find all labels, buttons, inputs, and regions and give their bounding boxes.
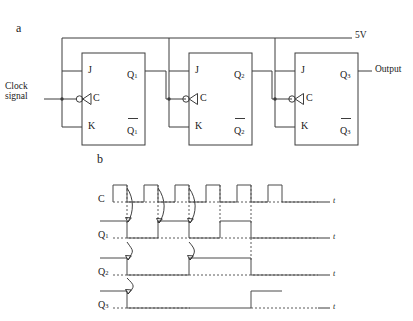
ff2-pin-k: K <box>195 120 202 131</box>
arrow-c-to-q1-a <box>127 188 132 222</box>
trace-q3-sub: 3 <box>105 302 108 309</box>
q2-to-ff3-clock-wire <box>252 71 292 99</box>
ff3-pin-j: J <box>301 64 305 75</box>
t-axis-label-c: t <box>333 196 335 205</box>
ff1-pin-c: C <box>93 92 100 103</box>
panel-b-timing <box>100 185 330 308</box>
trace-q2-sub: 2 <box>105 269 108 276</box>
t-axis-label-q2: t <box>333 269 335 278</box>
ff2-q-sub: 2 <box>241 72 244 79</box>
trace-c-letter: C <box>98 193 105 204</box>
q2-waveform <box>100 258 318 275</box>
t-axis-label-q3: t <box>333 302 335 311</box>
supply-label: 5V <box>355 30 367 40</box>
trace-label-q3: Q3 <box>98 294 108 312</box>
ff2-qbar-sub: 2 <box>241 128 244 135</box>
ff2-pin-c: C <box>200 92 207 103</box>
trace-q1-sub: 1 <box>105 232 108 239</box>
arrow-head-q1-q2-a <box>126 256 132 261</box>
trace-label-q2: Q2 <box>98 261 108 279</box>
clock-label-line-1: Clock <box>5 81 28 91</box>
panel-b-label: b <box>97 152 103 167</box>
c-waveform <box>113 185 318 202</box>
t-axis-label-q1: t <box>333 232 335 241</box>
ff3-q-sub: 3 <box>347 72 350 79</box>
figure-canvas: a b 5V Clock signal Output J C K Q1 Q1 J… <box>0 0 413 321</box>
clock-signal-label: Clock signal <box>5 81 28 101</box>
ff1-clock-triangle-icon <box>83 94 91 105</box>
ff1-pin-k: K <box>88 120 95 131</box>
diagram-svg <box>0 0 413 321</box>
ff3-qbar-sub: 3 <box>347 128 350 135</box>
ff1-pin-qbar: Q1 <box>127 120 137 138</box>
ff3-pin-qbar: Q3 <box>340 120 350 138</box>
arrow-c-to-q1-b <box>158 188 164 223</box>
ff3-pin-k: K <box>301 120 308 131</box>
ff1-pin-q: Q1 <box>127 64 137 82</box>
q1-to-ff2-clock-wire <box>145 71 186 99</box>
q1-waveform <box>100 221 318 238</box>
trigger-arrows <box>126 188 196 294</box>
clock-label-line-2: signal <box>5 91 28 101</box>
panel-a-label: a <box>16 21 21 36</box>
ff2-pin-q: Q2 <box>234 64 244 82</box>
clock-junction-dot-2 <box>167 97 170 100</box>
clock-junction-dot-3 <box>273 97 276 100</box>
ff3-pin-q: Q3 <box>340 64 350 82</box>
ff3-clock-triangle-icon <box>295 94 303 105</box>
ff2-pin-j: J <box>195 64 199 75</box>
ff1-pin-j: J <box>88 64 92 75</box>
ff3-pin-c: C <box>306 92 313 103</box>
ff2-clock-triangle-icon <box>189 94 197 105</box>
trace-label-q1: Q1 <box>98 224 108 242</box>
trace-label-c: C <box>98 188 105 206</box>
ff1-qbar-sub: 1 <box>134 128 137 135</box>
ff2-pin-qbar: Q2 <box>234 120 244 138</box>
clock-junction-dot-1 <box>60 97 63 100</box>
ff1-q-sub: 1 <box>134 72 137 79</box>
arrow-c-to-q1-c <box>189 188 195 223</box>
output-label: Output <box>375 64 401 74</box>
arrow-head-c-q1-c <box>188 219 194 224</box>
